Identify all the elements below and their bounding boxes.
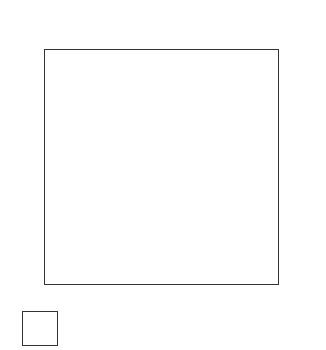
x1-x2-thumbnail <box>22 311 58 346</box>
main-grid-frame <box>44 49 279 285</box>
